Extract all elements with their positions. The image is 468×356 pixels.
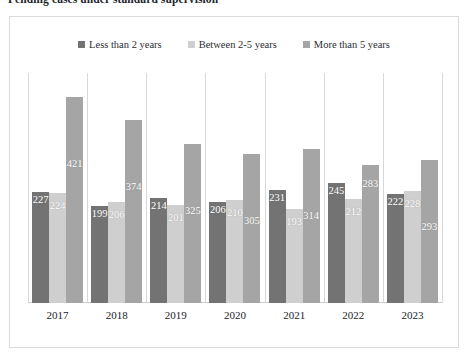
bar-value-label: 228 [405,199,421,210]
bar-value-label: 224 [50,201,66,212]
bar-2022-series-3[interactable]: 283 [362,165,379,303]
bar-value-label: 210 [227,208,243,219]
page-title: Pending cases under standard supervision [8,0,460,7]
bar-2018-series-3[interactable]: 374 [125,120,142,303]
bar-value-label: 206 [109,210,125,221]
bar-value-label: 231 [269,193,285,204]
bar-value-label: 206 [210,205,226,216]
bar-value-label: 193 [286,217,302,228]
chart-container: Less than 2 yearsBetween 2-5 yearsMore t… [9,16,459,348]
bar-2017-series-1[interactable]: 227 [32,192,49,303]
bar-2017-series-2[interactable]: 224 [49,193,66,303]
chart-legend: Less than 2 yearsBetween 2-5 yearsMore t… [10,39,458,50]
plot-area: 2272244211992063742142013252062103052311… [28,73,442,303]
bar-value-label: 222 [388,197,404,208]
bar-2023-series-2[interactable]: 228 [404,191,421,303]
x-tick-2020: 2020 [205,309,264,321]
bar-2023-series-3[interactable]: 293 [421,160,438,303]
x-tick-2018: 2018 [87,309,146,321]
bar-2019-series-2[interactable]: 201 [167,205,184,303]
legend-label-2: Between 2-5 years [199,39,277,50]
bar-group-2018: 199206374 [87,73,146,303]
bar-2017-series-3[interactable]: 421 [66,97,83,303]
bar-2020-series-1[interactable]: 206 [209,202,226,303]
legend-label-3: More than 5 years [314,39,390,50]
x-tick-2019: 2019 [146,309,205,321]
bar-value-label: 293 [422,222,438,233]
bar-value-label: 201 [168,213,184,224]
legend-swatch-icon-3 [303,41,310,48]
x-tick-2021: 2021 [265,309,324,321]
x-tick-2022: 2022 [324,309,383,321]
bar-value-label: 314 [303,211,319,222]
legend-item-3[interactable]: More than 5 years [303,39,390,50]
legend-label-1: Less than 2 years [89,39,162,50]
legend-swatch-icon-2 [188,41,195,48]
bar-value-label: 227 [33,195,49,206]
bar-2021-series-3[interactable]: 314 [303,149,320,303]
bar-2018-series-2[interactable]: 206 [108,202,125,303]
bar-value-label: 245 [328,186,344,197]
bar-value-label: 374 [126,182,142,193]
bar-2022-series-2[interactable]: 212 [345,199,362,303]
bar-value-label: 325 [185,206,201,217]
legend-swatch-icon-1 [78,41,85,48]
legend-item-1[interactable]: Less than 2 years [78,39,162,50]
bar-2022-series-1[interactable]: 245 [328,183,345,303]
bar-2023-series-1[interactable]: 222 [387,194,404,303]
bar-group-2023: 222228293 [383,73,442,303]
bar-value-label: 283 [362,179,378,190]
bar-2019-series-3[interactable]: 325 [184,144,201,303]
bar-group-2022: 245212283 [324,73,383,303]
bar-2019-series-1[interactable]: 214 [150,198,167,303]
bar-2020-series-3[interactable]: 305 [243,154,260,303]
bar-group-2019: 214201325 [146,73,205,303]
bar-2018-series-1[interactable]: 199 [91,206,108,303]
x-axis-labels: 2017201820192020202120222023 [28,309,442,327]
bar-value-label: 212 [345,207,361,218]
bar-2021-series-2[interactable]: 193 [286,209,303,303]
bar-value-label: 421 [67,159,83,170]
x-tick-2023: 2023 [383,309,442,321]
gridline-vertical [442,73,443,303]
bar-2020-series-2[interactable]: 210 [226,200,243,303]
bar-value-label: 305 [244,216,260,227]
bar-value-label: 199 [92,209,108,220]
x-tick-2017: 2017 [28,309,87,321]
bar-2021-series-1[interactable]: 231 [269,190,286,303]
bar-group-2021: 231193314 [265,73,324,303]
bar-group-2017: 227224421 [28,73,87,303]
bar-group-2020: 206210305 [205,73,264,303]
bar-value-label: 214 [151,201,167,212]
legend-item-2[interactable]: Between 2-5 years [188,39,277,50]
